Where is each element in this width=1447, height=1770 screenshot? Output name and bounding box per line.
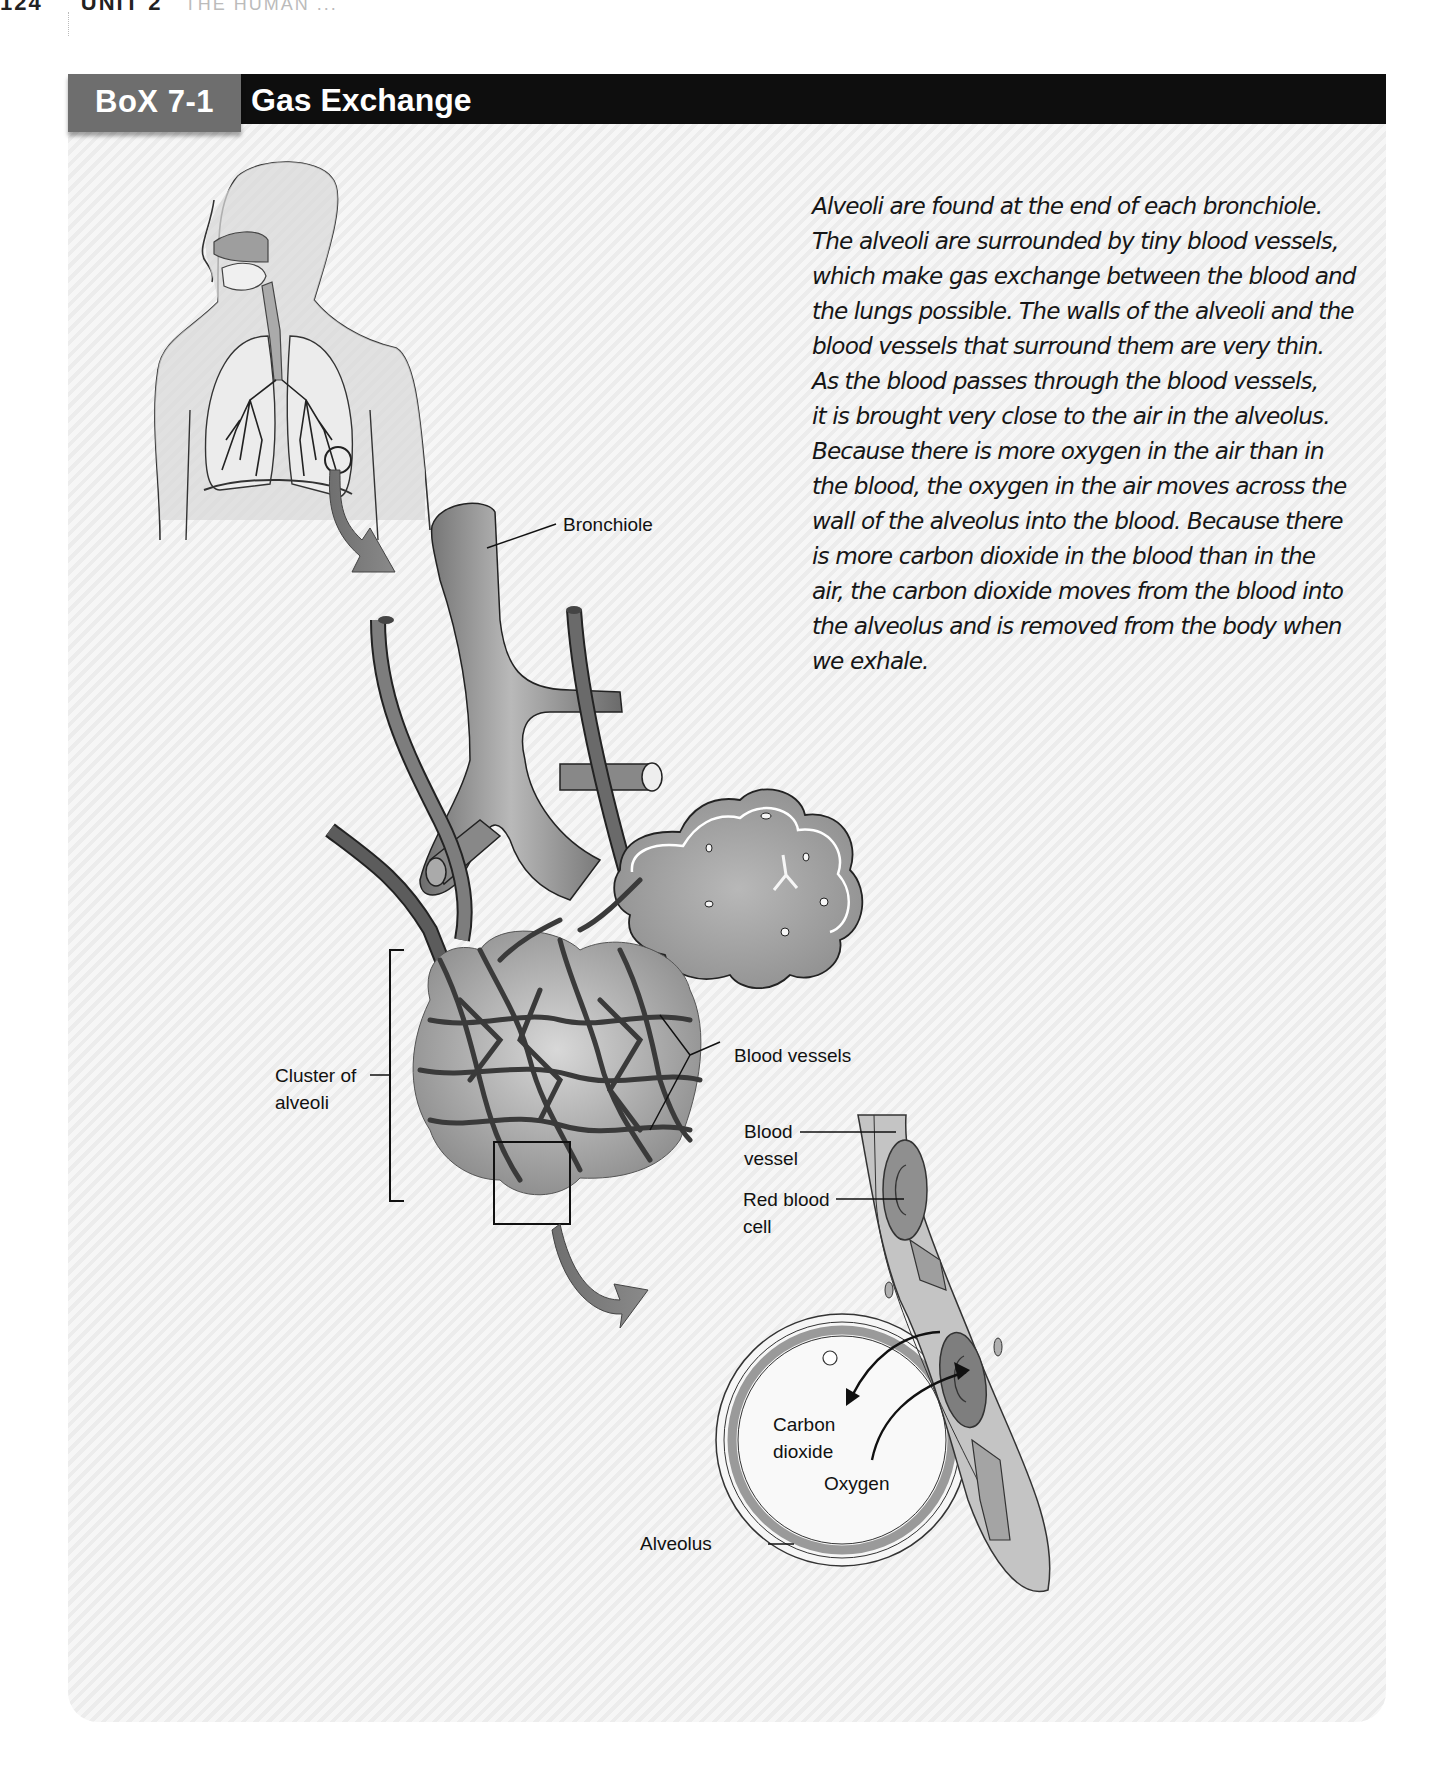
label-carbon-dioxide: Carbon dioxide	[773, 1411, 835, 1465]
human-torso-respiratory-icon	[155, 162, 430, 540]
label-blood-vessels: Blood vessels	[734, 1042, 851, 1069]
cluster-bracket	[390, 950, 404, 1201]
label-red-blood-cell: Red blood cell	[743, 1186, 830, 1240]
label-line: Carbon	[773, 1411, 835, 1438]
label-line: cell	[743, 1213, 830, 1240]
label-line: dioxide	[773, 1438, 835, 1465]
label-line: Red blood	[743, 1186, 830, 1213]
label-line: Cluster of	[275, 1062, 356, 1089]
label-line: alveoli	[275, 1089, 356, 1116]
label-oxygen: Oxygen	[824, 1470, 889, 1497]
label-cluster-of-alveoli: Cluster of alveoli	[275, 1062, 356, 1116]
label-bronchiole: Bronchiole	[563, 511, 653, 538]
label-line: Blood	[744, 1118, 798, 1145]
label-alveolus: Alveolus	[640, 1530, 712, 1557]
zoom-arrow-icon	[552, 1224, 648, 1328]
label-blood-vessel: Blood vessel	[744, 1118, 798, 1172]
label-line: vessel	[744, 1145, 798, 1172]
gas-exchange-illustration	[0, 0, 1447, 1770]
